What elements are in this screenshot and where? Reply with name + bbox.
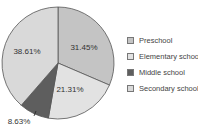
legend-item-elementary-school: Elementary school [127,48,198,64]
legend: Preschool Elementary school Middle schoo… [127,32,198,96]
legend-swatch [127,37,134,44]
legend-item-secondary-school: Secondary school [127,80,198,96]
legend-label: Preschool [139,36,172,45]
legend-label: Middle school [139,68,185,77]
legend-item-preschool: Preschool [127,32,198,48]
legend-swatch [127,85,134,92]
legend-label: Secondary school [139,84,198,93]
slice-label: 21.31% [56,85,83,94]
slice-label: 31.45% [70,43,97,52]
slice-label: 8.63% [8,117,31,126]
legend-swatch [127,69,134,76]
legend-item-middle-school: Middle school [127,64,198,80]
legend-swatch [127,53,134,60]
legend-label: Elementary school [139,52,198,61]
slice-label: 38.61% [13,47,40,56]
